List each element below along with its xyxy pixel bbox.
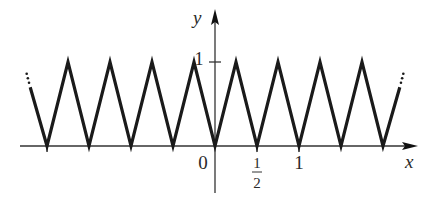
x-tick-label: 1 <box>294 152 304 173</box>
continuation-dot-left <box>28 81 31 84</box>
continuation-dot-right <box>402 72 405 75</box>
continuation-dot-left <box>25 72 28 75</box>
x-axis-label: x <box>404 151 414 172</box>
continuation-dot-right <box>401 77 404 80</box>
x-tick-label-denominator: 2 <box>253 175 261 191</box>
continuation-dot-left <box>27 77 30 80</box>
x-tick-label: 0 <box>198 152 208 173</box>
y-axis-label: y <box>191 7 202 28</box>
continuation-dot-right <box>400 81 403 84</box>
zigzag-chart: x y 01211 <box>0 0 439 205</box>
x-tick-label-numerator: 1 <box>253 155 261 171</box>
